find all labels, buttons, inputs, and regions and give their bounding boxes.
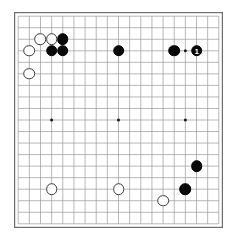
go-stone-white[interactable] xyxy=(157,195,169,207)
stone-move-number: 1 xyxy=(192,46,202,57)
go-stone-black[interactable] xyxy=(46,45,58,57)
go-stone-black[interactable] xyxy=(57,45,69,57)
go-stone-white[interactable] xyxy=(46,183,58,195)
go-stone-white[interactable] xyxy=(24,45,36,57)
go-stone-black[interactable]: 1 xyxy=(191,45,203,57)
go-stone-white[interactable] xyxy=(113,183,125,195)
go-stone-black[interactable] xyxy=(113,45,125,57)
go-stone-black[interactable] xyxy=(180,183,192,195)
go-stone-black[interactable] xyxy=(191,160,203,172)
go-stone-black[interactable] xyxy=(57,33,69,45)
go-board-figure: 1 xyxy=(0,0,234,243)
go-stone-white[interactable] xyxy=(24,68,36,80)
go-stone-black[interactable] xyxy=(168,45,180,57)
go-stone-white[interactable] xyxy=(46,33,58,45)
stone-layer: 1 xyxy=(14,12,223,228)
go-stone-white[interactable] xyxy=(35,33,47,45)
go-board[interactable]: 1 xyxy=(14,12,223,228)
